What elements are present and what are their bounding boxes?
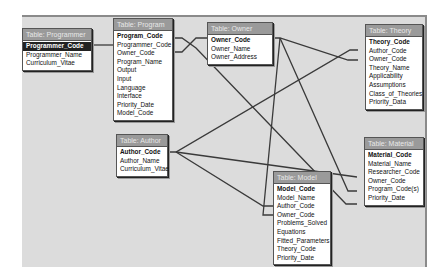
table-model[interactable]: Table: Model Model_Code Model_Name Autho… <box>273 171 331 265</box>
field-assumptions[interactable]: Assumptions <box>366 81 422 90</box>
table-title[interactable]: Table: Theory <box>366 25 422 37</box>
field-programmer-code[interactable]: Programmer_Code <box>114 41 172 50</box>
field-theory-code[interactable]: Theory_Code <box>274 245 330 254</box>
table-program[interactable]: Table: Program Program_Code Programmer_C… <box>113 18 173 121</box>
table-title[interactable]: Table: Programmer <box>23 29 91 41</box>
table-programmer[interactable]: Table: Programmer Programmer_Code Progra… <box>22 28 92 71</box>
field-author-name[interactable]: Author_Name <box>117 157 167 166</box>
table-owner[interactable]: Table: Owner Owner_Code Owner_Name Owner… <box>207 22 273 65</box>
field-theory-name[interactable]: Theory_Name <box>366 64 422 73</box>
field-program-code[interactable]: Program_Code <box>114 32 172 41</box>
field-model-code[interactable]: Model_Code <box>114 109 172 118</box>
field-priority-date[interactable]: Priority_Date <box>365 194 423 203</box>
field-owner-code[interactable]: Owner_Code <box>274 211 330 220</box>
field-theory-code[interactable]: Theory_Code <box>366 38 422 47</box>
field-owner-code[interactable]: Owner_Code <box>365 177 423 186</box>
field-model-name[interactable]: Model_Name <box>274 194 330 203</box>
field-author-code[interactable]: Author_Code <box>274 202 330 211</box>
table-material[interactable]: Table: Material Material_Code Material_N… <box>364 137 424 206</box>
table-theory[interactable]: Table: Theory Theory_Code Author_Code Ow… <box>365 24 423 110</box>
field-equations[interactable]: Equations <box>274 228 330 237</box>
field-output[interactable]: Output <box>114 66 172 75</box>
table-author[interactable]: Table: Author Author_Code Author_Name Cu… <box>116 134 168 177</box>
field-owner-code[interactable]: Owner_Code <box>366 55 422 64</box>
field-programmer-code[interactable]: Programmer_Code <box>23 42 91 51</box>
field-author-code[interactable]: Author_Code <box>366 47 422 56</box>
field-input[interactable]: Input <box>114 75 172 84</box>
field-applicability[interactable]: Applicability <box>366 72 422 81</box>
field-interface[interactable]: Interface <box>114 92 172 101</box>
table-title[interactable]: Table: Author <box>117 135 167 147</box>
field-material-code[interactable]: Material_Code <box>365 151 423 160</box>
field-model-code[interactable]: Model_Code <box>274 185 330 194</box>
field-language[interactable]: Language <box>114 84 172 93</box>
field-curriculum-vitae[interactable]: Curriculum_Vitae <box>23 59 91 68</box>
field-priority-date[interactable]: Priority_Date <box>114 101 172 110</box>
table-title[interactable]: Table: Model <box>274 172 330 184</box>
field-program-name[interactable]: Program_Name <box>114 58 172 67</box>
field-priority-date[interactable]: Priority_Date <box>274 254 330 263</box>
field-class-of-theories[interactable]: Class_of_Theories <box>366 90 422 99</box>
field-owner-address[interactable]: Owner_Address <box>208 53 272 62</box>
table-title[interactable]: Table: Material <box>365 138 423 150</box>
field-owner-code[interactable]: Owner_Code <box>114 49 172 58</box>
field-owner-code[interactable]: Owner_Code <box>208 36 272 45</box>
field-curriculum-vitae[interactable]: Curriculum_Vitae <box>117 165 167 174</box>
field-owner-name[interactable]: Owner_Name <box>208 45 272 54</box>
field-researcher-code[interactable]: Researcher_Code <box>365 168 423 177</box>
field-programmer-name[interactable]: Programmer_Name <box>23 51 91 60</box>
field-program-codes[interactable]: Program_Code(s) <box>365 185 423 194</box>
table-title[interactable]: Table: Owner <box>208 23 272 35</box>
field-problems-solved[interactable]: Problems_Solved <box>274 219 330 228</box>
field-author-code[interactable]: Author_Code <box>117 148 167 157</box>
table-title[interactable]: Table: Program <box>114 19 172 31</box>
field-fitted-parameters[interactable]: Fitted_Parameters <box>274 237 330 246</box>
field-material-name[interactable]: Material_Name <box>365 160 423 169</box>
field-priority-data[interactable]: Priority_Data <box>366 98 422 107</box>
